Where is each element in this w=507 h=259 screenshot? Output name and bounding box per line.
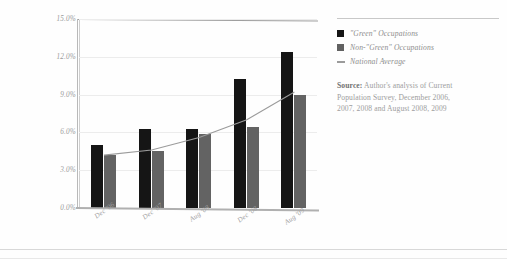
x-tick-label: Dec '07 [141, 202, 164, 222]
legend-item-label: National Average [350, 57, 406, 66]
source-line-1-rest: Author's analysis of Current [362, 81, 452, 90]
x-axis-tick-labels: Dec '06Dec '07Aug '08Dec '08Aug '09 [0, 0, 330, 250]
source-note: Source: Author's analysis of Current Pop… [337, 80, 503, 115]
legend-item[interactable]: National Average [337, 55, 502, 68]
source-line-2: Population Survey, December 2006, [337, 92, 503, 104]
source-label: Source: [337, 81, 362, 90]
legend-square-icon [337, 30, 344, 37]
x-tick-label: Dec '06 [93, 201, 116, 221]
x-tick-label: Dec '08 [236, 205, 259, 225]
legend-divider [337, 18, 499, 19]
x-tick-label: Aug '09 [283, 206, 306, 226]
x-tick-label: Aug '08 [188, 203, 211, 223]
source-line-3: 2007, 2008 and August 2008, 2009 [337, 103, 503, 115]
legend-item[interactable]: "Green" Occupations [337, 27, 502, 40]
page-edge-upper [0, 249, 507, 250]
legend-item[interactable]: Non-"Green" Occupations [337, 41, 502, 54]
legend-square-icon [337, 44, 344, 51]
chart-screenshot: 0.0%3.0%6.0%9.0%12.0%15.0% Dec '06Dec '0… [0, 0, 507, 259]
source-line-1: Source: Author's analysis of Current [337, 80, 503, 92]
legend-item-label: Non-"Green" Occupations [350, 43, 434, 52]
chart-figure: 0.0%3.0%6.0%9.0%12.0%15.0% Dec '06Dec '0… [0, 0, 330, 250]
legend-item-label: "Green" Occupations [350, 29, 418, 38]
legend-line-icon [337, 58, 344, 65]
